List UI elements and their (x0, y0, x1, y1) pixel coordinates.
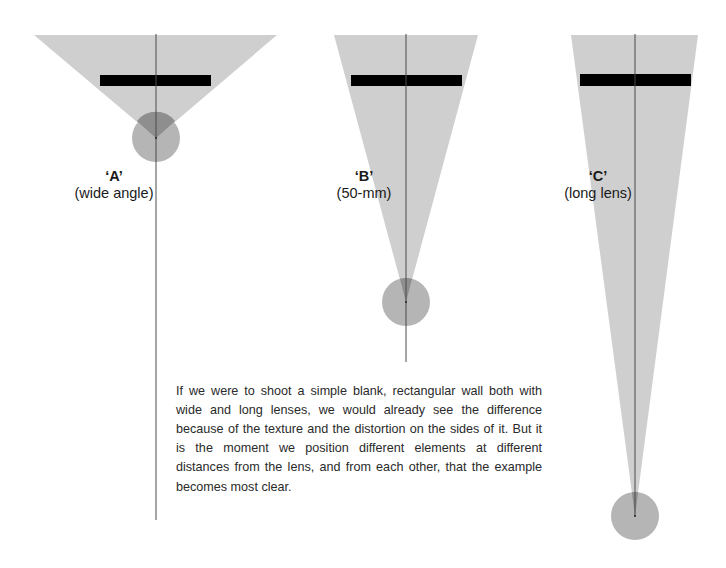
lens-a-focal-point (155, 137, 157, 139)
lens-a-description: (wide angle) (44, 185, 184, 202)
lens-b-description: (50-mm) (294, 185, 434, 202)
lens-c-letter: ‘C’ (528, 168, 668, 185)
lens-a-letter: ‘A’ (44, 168, 184, 185)
caption-paragraph: If we were to shoot a simple blank, rect… (176, 382, 542, 497)
lens-c-description: (long lens) (528, 185, 668, 202)
lens-b-letter: ‘B’ (294, 168, 434, 185)
lens-b-focal-point (405, 301, 407, 303)
lens-b-label: ‘B’ (50-mm) (294, 168, 434, 202)
lens-c-label: ‘C’ (long lens) (528, 168, 668, 202)
lens-c-focal-point (634, 515, 636, 517)
lens-c-group (571, 34, 698, 540)
lens-a-label: ‘A’ (wide angle) (44, 168, 184, 202)
